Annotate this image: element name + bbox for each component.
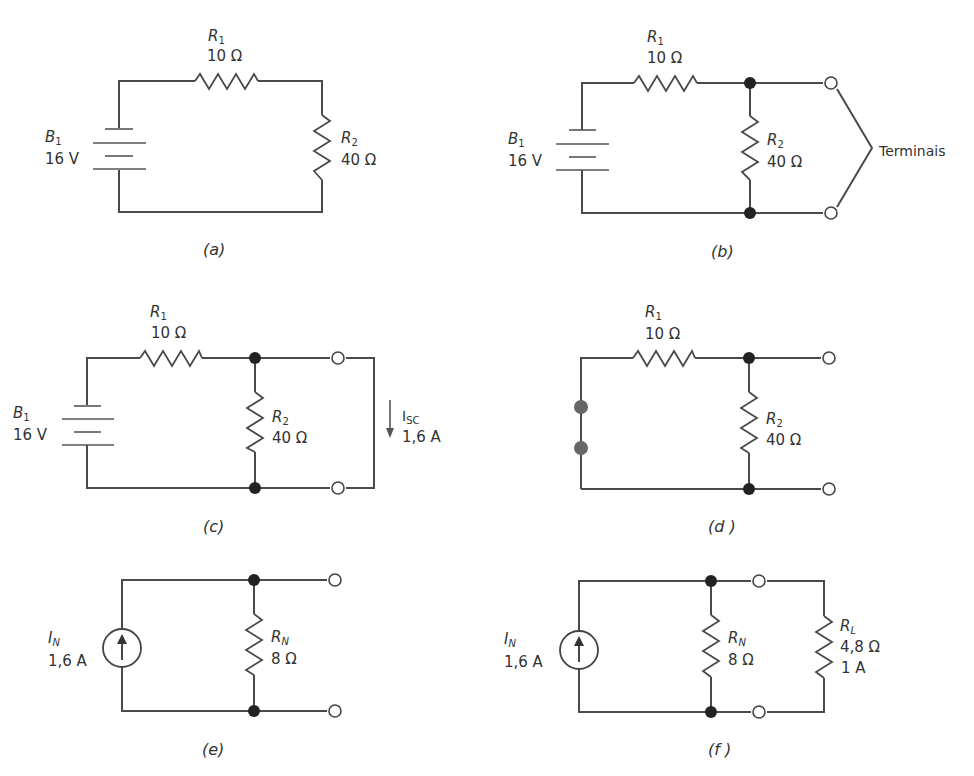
junction-dot <box>249 352 261 364</box>
terminals-label: Terminais <box>879 142 945 160</box>
junction-dot <box>744 207 756 219</box>
terminal-a <box>825 77 837 89</box>
r1-label: R1 <box>647 28 664 51</box>
terminal-b <box>823 483 835 495</box>
in-value: 1,6 A <box>48 652 87 670</box>
shorted-source-dot <box>574 400 588 414</box>
isc-value: 1,6 A <box>402 428 441 446</box>
resistor-r2-symbol <box>247 392 263 452</box>
terminal-b <box>332 482 344 494</box>
caption-c: (c) <box>203 517 224 536</box>
b1-label: B1 <box>45 128 62 151</box>
r1-value: 10 Ω <box>647 49 682 67</box>
circuit-diagram-canvas <box>0 0 974 776</box>
b1-label: B1 <box>13 404 30 427</box>
junction-dot <box>744 77 756 89</box>
battery-symbol <box>62 406 114 445</box>
r2-label: R2 <box>767 131 784 154</box>
terminal-b <box>825 207 837 219</box>
junction-dot <box>743 352 755 364</box>
b1-value: 16 V <box>13 426 47 444</box>
circuit-e <box>103 574 341 717</box>
resistor-r2-symbol <box>742 116 758 180</box>
r1-value: 10 Ω <box>207 47 242 65</box>
terminal-a <box>332 352 344 364</box>
caption-b: (b) <box>711 242 734 261</box>
current-arrow-icon <box>386 400 394 438</box>
circuit-c <box>62 351 394 494</box>
circuit-a <box>93 74 330 212</box>
terminal-a <box>823 352 835 364</box>
resistor-r2-symbol <box>314 115 330 180</box>
r2-value: 40 Ω <box>341 151 376 169</box>
terminal-a <box>329 574 341 586</box>
caption-a: (a) <box>203 240 225 259</box>
r1-label: R1 <box>645 303 662 326</box>
resistor-r1-symbol <box>633 351 695 366</box>
rn-value: 8 Ω <box>728 651 754 669</box>
b1-value: 16 V <box>45 150 79 168</box>
r1-label: R1 <box>150 303 167 326</box>
resistor-rn-symbol <box>703 615 719 677</box>
battery-symbol <box>556 130 609 170</box>
junction-dot <box>248 574 260 586</box>
resistor-r2-symbol <box>741 392 757 453</box>
r1-value: 10 Ω <box>151 324 186 342</box>
b1-label: B1 <box>508 130 525 153</box>
circuit-f <box>560 575 832 718</box>
in-value: 1,6 A <box>504 653 543 671</box>
junction-dot <box>743 483 755 495</box>
resistor-rl-symbol <box>816 616 832 678</box>
circuit-d <box>574 351 835 495</box>
caption-e: (e) <box>202 740 224 759</box>
rn-value: 8 Ω <box>271 650 297 668</box>
rl-label: RL <box>840 617 856 640</box>
terminal-b <box>329 705 341 717</box>
terminal-a <box>753 575 765 587</box>
caption-d: (d ) <box>708 517 736 536</box>
resistor-r1-symbol <box>140 351 202 366</box>
caption-f: (f ) <box>708 740 731 759</box>
junction-dot <box>705 706 717 718</box>
r2-label: R2 <box>341 129 358 152</box>
rl-value: 4,8 Ω <box>840 638 880 656</box>
resistor-rn-symbol <box>246 614 262 675</box>
rl-current: 1 A <box>841 659 866 677</box>
circuit-b <box>556 76 872 219</box>
shorted-source-dot <box>574 441 588 455</box>
isc-label: ISC <box>402 407 419 430</box>
in-label: IN <box>504 630 516 653</box>
r2-value: 40 Ω <box>272 429 307 447</box>
resistor-r1-symbol <box>195 74 258 89</box>
battery-symbol <box>93 129 146 169</box>
r1-value: 10 Ω <box>645 325 680 343</box>
rn-label: RN <box>728 629 746 652</box>
in-label: IN <box>48 629 60 652</box>
r2-label: R2 <box>766 410 783 433</box>
current-source-icon <box>560 631 598 669</box>
junction-dot <box>249 482 261 494</box>
r2-value: 40 Ω <box>767 153 802 171</box>
r2-label: R2 <box>272 408 289 431</box>
r2-value: 40 Ω <box>766 431 801 449</box>
resistor-r1-symbol <box>634 76 697 91</box>
current-source-icon <box>103 629 141 667</box>
terminal-b <box>753 706 765 718</box>
rn-label: RN <box>271 628 289 651</box>
junction-dot <box>248 705 260 717</box>
b1-value: 16 V <box>508 152 542 170</box>
junction-dot <box>705 575 717 587</box>
